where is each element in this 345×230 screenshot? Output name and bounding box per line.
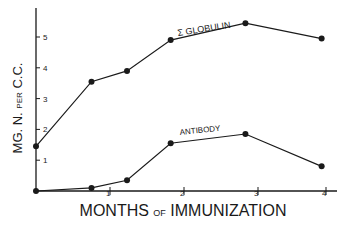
xlabel-small: OF (153, 208, 166, 218)
y-axis-title: MG. N. PER C.C. (10, 63, 25, 154)
ylabel-small: PER (15, 92, 24, 109)
x-tick-label: 4 (322, 189, 327, 198)
series-label-globulin: Σ GLOBULIN (177, 20, 231, 38)
x-tick-label: 2 (180, 189, 185, 198)
data-point (242, 20, 248, 26)
x-axis-title: MONTHS OF IMMUNIZATION (80, 202, 287, 219)
y-tick-label: 3 (43, 95, 48, 104)
y-tick-label: 4 (43, 64, 48, 73)
series-layer (33, 20, 325, 194)
plot-area: 123451234 Σ GLOBULIN ANTIBODY MG. N. PER… (0, 0, 345, 230)
data-point (319, 36, 325, 42)
xlabel-main2: IMMUNIZATION (170, 202, 286, 219)
data-point (33, 188, 39, 194)
data-point (33, 143, 39, 149)
ylabel-end: C.C. (10, 63, 25, 89)
data-point (124, 177, 130, 183)
data-point (124, 68, 130, 74)
data-point (168, 37, 174, 43)
series-label-antibody: ANTIBODY (179, 124, 221, 137)
data-point (89, 185, 95, 191)
data-point (242, 131, 248, 137)
chart: 123451234 Σ GLOBULIN ANTIBODY MG. N. PER… (0, 0, 345, 230)
data-point (319, 163, 325, 169)
y-tick-label: 1 (43, 156, 48, 165)
xlabel-main1: MONTHS (80, 202, 149, 219)
x-tick-label: 1 (106, 189, 111, 198)
ylabel-main: MG. N. (10, 112, 25, 153)
y-tick-label: 5 (43, 33, 48, 42)
antibody-line (36, 134, 322, 191)
svg-text:MG. N. PER C.C: MG. N. PER C.C. (10, 63, 25, 154)
data-point (89, 79, 95, 85)
data-point (168, 140, 174, 146)
x-tick-label: 3 (254, 189, 259, 198)
